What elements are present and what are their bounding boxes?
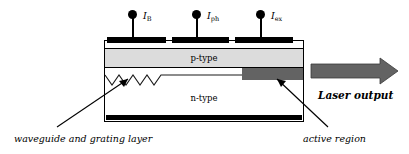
n-type-label: n-type [105, 94, 303, 103]
terminal-subscript-current-excitation: ex [275, 15, 283, 23]
laser-output-label: Laser output [318, 90, 393, 101]
active-region-block [242, 68, 303, 80]
terminal-label-current-phase: Iph [207, 11, 219, 21]
terminal-subscript-current-phase: ph [211, 15, 219, 23]
terminal-subscript-current-bragg: B [147, 15, 152, 23]
terminal-label-current-bragg: IB [143, 11, 152, 21]
terminal-label-current-excitation: Iex [271, 11, 282, 21]
laser-diagram-figure: IB Iph Iex p-type n-type [0, 0, 409, 154]
waveguide-grating-caption: waveguide and grating layer [14, 134, 152, 144]
p-type-label: p-type [105, 54, 303, 63]
p-type-layer: p-type [105, 48, 303, 68]
active-region-caption: active region [303, 134, 366, 144]
n-type-layer: n-type [105, 80, 303, 115]
bottom-electrode [106, 115, 302, 120]
laser-output-arrow [311, 58, 398, 84]
